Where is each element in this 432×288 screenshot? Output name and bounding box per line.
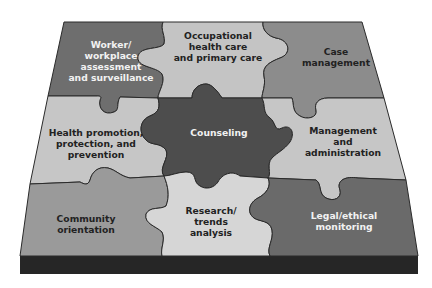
puzzle-board-base bbox=[20, 255, 418, 274]
svg-text:Management: Management bbox=[309, 125, 377, 136]
svg-text:Worker/: Worker/ bbox=[91, 39, 132, 50]
svg-text:Research/: Research/ bbox=[185, 205, 237, 216]
svg-text:management: management bbox=[302, 57, 371, 68]
svg-text:health care: health care bbox=[189, 41, 248, 52]
svg-text:Community: Community bbox=[57, 213, 116, 224]
label-counseling: Counseling bbox=[190, 127, 247, 138]
puzzle-diagram: Worker/ workplace assessment and surveil… bbox=[0, 0, 432, 288]
svg-text:and primary care: and primary care bbox=[174, 52, 263, 63]
label-community: Community orientation bbox=[57, 213, 116, 235]
svg-text:and: and bbox=[333, 136, 352, 147]
svg-text:prevention: prevention bbox=[68, 149, 125, 160]
svg-text:Case: Case bbox=[324, 46, 349, 57]
svg-text:and surveillance: and surveillance bbox=[68, 72, 153, 83]
svg-text:assessment: assessment bbox=[80, 61, 142, 72]
svg-text:administration: administration bbox=[305, 147, 381, 158]
svg-text:trends: trends bbox=[194, 216, 228, 227]
svg-text:analysis: analysis bbox=[190, 227, 233, 238]
svg-text:monitoring: monitoring bbox=[315, 221, 372, 232]
svg-text:protection, and: protection, and bbox=[56, 138, 136, 149]
svg-text:Health promotion,: Health promotion, bbox=[49, 127, 144, 138]
label-legal: Legal/ethical monitoring bbox=[311, 210, 377, 232]
svg-text:Legal/ethical: Legal/ethical bbox=[311, 210, 377, 221]
svg-text:Counseling: Counseling bbox=[190, 127, 247, 138]
svg-text:Occupational: Occupational bbox=[184, 30, 252, 41]
svg-text:orientation: orientation bbox=[57, 224, 115, 235]
svg-text:workplace: workplace bbox=[84, 50, 137, 61]
